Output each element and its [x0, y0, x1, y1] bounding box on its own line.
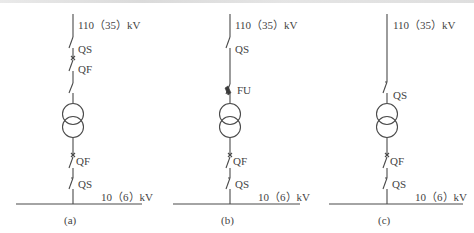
diagram-caption: (c): [378, 214, 390, 226]
disconnector-qs-icon: [69, 37, 73, 58]
hv-voltage-label: 110（35）kV: [78, 19, 141, 31]
diagram-caption: (b): [221, 214, 234, 226]
disconnector-qs-icon: [226, 178, 230, 204]
transformer-icon: [220, 104, 241, 138]
qs-label: QS: [393, 89, 407, 101]
disconnector-qs-icon: [69, 178, 73, 204]
transformer-icon: [377, 104, 398, 138]
qf-label: QF: [390, 155, 404, 167]
qs-label: QS: [392, 178, 406, 190]
disconnector-qs-icon: [383, 82, 387, 103]
lv-voltage-label: 10（6）kV: [101, 191, 153, 203]
fuse-fu-icon: [225, 84, 231, 103]
qs-label: QS: [78, 43, 92, 55]
disconnector-qs-icon: [383, 178, 387, 204]
qf-label: QF: [76, 155, 90, 167]
circuit-breaker-qf-icon: [383, 153, 389, 178]
circuit-breaker-qf-icon: [69, 153, 75, 178]
diagram-caption: (a): [64, 214, 76, 226]
fu-label: FU: [237, 84, 251, 96]
lv-voltage-label: 10（6）kV: [258, 191, 310, 203]
transformer-icon: [63, 104, 84, 138]
circuit-breaker-qf-icon: [69, 56, 75, 80]
hv-voltage-label: 110（35）kV: [235, 19, 298, 31]
circuit-breaker-qf-icon: [226, 153, 232, 178]
lv-voltage-label: 10（6）kV: [415, 191, 467, 203]
qf-label: QF: [78, 63, 92, 75]
qs-label: QS: [235, 43, 249, 55]
hv-voltage-label: 110（35）kV: [393, 19, 456, 31]
qs-label: QS: [235, 178, 249, 190]
diagram-c: [329, 14, 463, 204]
disconnector-qs-icon: [226, 37, 230, 84]
qs-label: QS: [78, 178, 92, 190]
wiring-diagrams: [0, 0, 474, 233]
qf-label: QF: [233, 155, 247, 167]
disconnector-icon: [69, 80, 73, 103]
